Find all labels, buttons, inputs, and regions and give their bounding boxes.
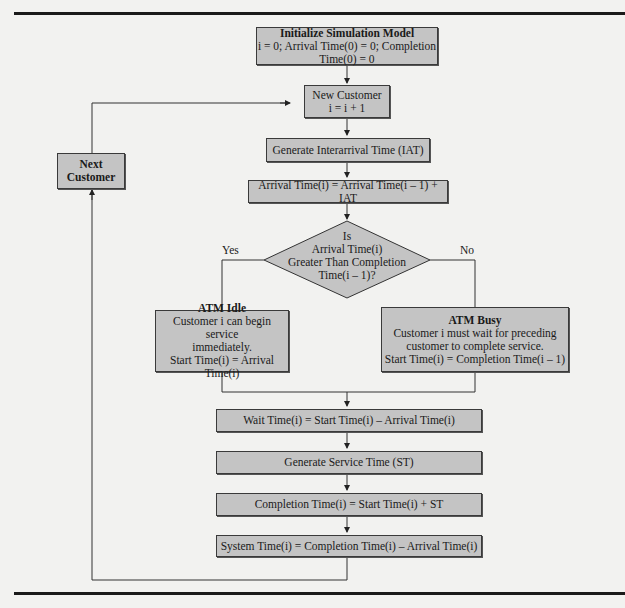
initialize-line: i = 0; Arrival Time(0) = 0; Completion T… — [257, 40, 437, 66]
decision-line3: Greater Than Completion — [280, 256, 414, 269]
new-customer-line: i = i + 1 — [329, 102, 366, 115]
generate-iat-box: Generate Interarrival Time (IAT) — [266, 138, 430, 162]
atm-busy-title: ATM Busy — [448, 314, 501, 327]
atm-idle-line2: immediately. — [192, 341, 252, 354]
decision-line2: Arrival Time(i) — [280, 243, 414, 256]
initialize-model-box: Initialize Simulation Model i = 0; Arriv… — [256, 27, 438, 65]
new-customer-box: New Customer i = i + 1 — [304, 85, 390, 118]
no-label: No — [460, 244, 474, 256]
atm-busy-line1: Customer i must wait for preceding — [393, 327, 556, 340]
initialize-title: Initialize Simulation Model — [280, 27, 414, 40]
atm-idle-line3: Start Time(i) = Arrival Time(i) — [156, 354, 288, 380]
generate-st-box: Generate Service Time (ST) — [216, 451, 482, 474]
decision-line4: Time(i – 1)? — [280, 269, 414, 282]
system-time-text: System Time(i) = Completion Time(i) – Ar… — [221, 540, 478, 553]
atm-idle-title: ATM Idle — [198, 302, 246, 315]
generate-st-text: Generate Service Time (ST) — [284, 456, 413, 469]
completion-time-text: Completion Time(i) = Start Time(i) + ST — [255, 498, 444, 511]
new-customer-title: New Customer — [312, 89, 381, 102]
atm-busy-line3: Start Time(i) = Completion Time(i – 1) — [385, 353, 565, 366]
completion-time-box: Completion Time(i) = Start Time(i) + ST — [216, 493, 482, 516]
generate-iat-text: Generate Interarrival Time (IAT) — [272, 144, 423, 157]
system-time-box: System Time(i) = Completion Time(i) – Ar… — [216, 535, 482, 557]
decision-diamond: Is Arrival Time(i) Greater Than Completi… — [280, 230, 414, 282]
atm-idle-box: ATM Idle Customer i can begin service im… — [155, 310, 289, 372]
yes-label: Yes — [222, 244, 239, 256]
arrival-time-box: Arrival Time(i) = Arrival Time(i – 1) + … — [248, 180, 448, 203]
atm-busy-line2: customer to complete service. — [406, 340, 543, 353]
atm-busy-box: ATM Busy Customer i must wait for preced… — [381, 307, 569, 372]
arrival-time-text: Arrival Time(i) = Arrival Time(i – 1) + … — [249, 179, 447, 205]
wait-time-text: Wait Time(i) = Start Time(i) – Arrival T… — [243, 414, 455, 427]
decision-line1: Is — [280, 230, 414, 243]
next-customer-line1: Next — [80, 158, 103, 171]
wait-time-box: Wait Time(i) = Start Time(i) – Arrival T… — [216, 409, 482, 432]
atm-idle-line1: Customer i can begin service — [156, 315, 288, 341]
next-customer-box: Next Customer — [57, 153, 125, 189]
next-customer-line2: Customer — [67, 171, 116, 184]
